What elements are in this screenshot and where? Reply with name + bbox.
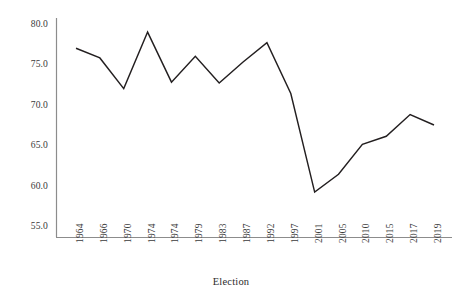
x-tick-label-text: 1974 <box>148 223 157 243</box>
figure-container: 80.075.070.065.060.055.0 196419661970197… <box>0 0 462 298</box>
x-tick-label-text: 2015 <box>386 223 395 243</box>
x-tick-label-text: 2019 <box>434 223 443 243</box>
x-tick-label-text: 2017 <box>410 223 419 243</box>
x-tick-label-text: 2005 <box>339 223 348 243</box>
x-tick-label-text: 1970 <box>124 223 133 243</box>
x-tick-label-text: 2001 <box>315 223 324 243</box>
x-tick-label-text: 1974 <box>171 223 180 243</box>
x-tick-label-text: 1992 <box>267 223 276 243</box>
x-tick-label-text: 1987 <box>243 223 252 243</box>
x-tick-label-text: 1979 <box>195 223 204 243</box>
x-tick-label-text: 1964 <box>76 223 85 243</box>
chart-plot-area: 80.075.070.065.060.055.0 196419661970197… <box>0 0 462 298</box>
x-tick-label-text: 1966 <box>100 223 109 243</box>
x-axis-title: Election <box>0 276 462 287</box>
x-tick-label-text: 1997 <box>291 223 300 243</box>
x-tick-label-text: 2010 <box>362 223 371 243</box>
x-axis-tick-labels: 1964196619701974197419791983198719921997… <box>0 0 462 298</box>
x-tick-label-text: 1983 <box>219 223 228 243</box>
